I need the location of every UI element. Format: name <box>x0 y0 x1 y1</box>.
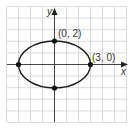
data-point <box>52 85 57 90</box>
point-label-right: (3, 0) <box>92 52 115 63</box>
ellipse-graph: y x (0, 2) (3, 0) <box>0 0 131 131</box>
data-point <box>52 38 57 43</box>
point-label-top: (0, 2) <box>58 28 81 39</box>
y-axis-arrow-icon <box>52 8 58 15</box>
data-point <box>16 62 21 67</box>
y-axis-label: y <box>46 6 53 17</box>
x-axis-label: x <box>120 66 127 77</box>
